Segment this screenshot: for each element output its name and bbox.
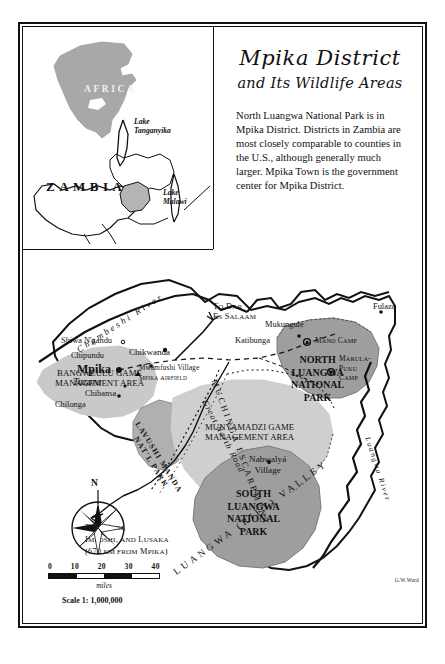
scale-tick-40: 40 — [152, 562, 160, 571]
scale-tick-30: 30 — [125, 562, 133, 571]
town-dot-mwamfushi — [149, 364, 153, 368]
town-dot-chilonga — [117, 394, 121, 398]
compass-rose: N — [60, 478, 136, 558]
zambia-highlight — [120, 182, 150, 212]
town-dot-mukungule — [297, 334, 301, 338]
town-dot-nabwalya — [267, 460, 271, 464]
town-dot-fulaza — [379, 310, 383, 314]
map-page: AFRICA ZAMBIA LakeTanganyika LakeMalawi … — [0, 0, 445, 664]
scale-bar-graphic — [48, 573, 160, 579]
cartographer-credit: G.W.Ward — [395, 577, 419, 583]
scale-segment-4 — [132, 574, 160, 578]
title-block: Mpika District and Its Wildlife Areas No… — [222, 46, 418, 193]
town-dot-chibansa — [123, 384, 126, 387]
panel-divider-vertical — [213, 27, 214, 249]
town-dot-mpika — [116, 367, 122, 373]
scale-tick-20: 20 — [98, 562, 106, 571]
compass-north-label: N — [91, 478, 98, 488]
description-text: North Luangwa National Park is in Mpika … — [222, 109, 418, 193]
scale-tick-0: 0 — [48, 562, 52, 571]
scale-bar-block: 0 10 20 30 40 miles Scale 1: 1,000,000 — [48, 562, 160, 605]
scale-segment-1 — [49, 574, 77, 578]
map-title: Mpika District — [222, 46, 418, 70]
locator-inset-map: AFRICA ZAMBIA LakeTanganyika LakeMalawi — [24, 28, 212, 248]
scale-segment-2 — [77, 574, 105, 578]
lake-malawi-shape — [174, 174, 180, 222]
scale-tick-10: 10 — [71, 562, 79, 571]
scale-segment-3 — [104, 574, 132, 578]
scale-unit-label: miles — [48, 581, 160, 590]
scale-tick-labels: 0 10 20 30 40 — [48, 562, 160, 571]
town-dot-chikwanda — [163, 348, 167, 352]
lake-tanganyika-body — [117, 120, 123, 166]
inset-detail-lines — [84, 218, 168, 244]
map-subtitle: and Its Wildlife Areas — [222, 75, 418, 91]
scale-ratio-label: Scale 1: 1,000,000 — [62, 596, 160, 605]
inset-corner-line — [184, 186, 210, 210]
